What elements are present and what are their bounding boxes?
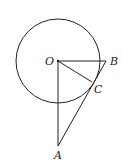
label-b: B [109,55,118,68]
segment-oc [58,61,92,82]
label-o: O [45,55,54,68]
segment-ab [58,61,106,146]
point-o [57,60,59,62]
label-a: A [53,149,62,162]
label-c: C [94,83,103,96]
geometry-diagram: O B C A [0,0,123,165]
